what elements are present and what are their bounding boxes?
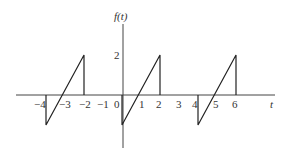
sawtooth-period-3 bbox=[198, 55, 236, 125]
x-tick: 5 bbox=[213, 98, 219, 110]
sawtooth-period-1 bbox=[46, 55, 84, 125]
x-tick: 2 bbox=[156, 98, 162, 110]
x-tick: 6 bbox=[232, 98, 238, 110]
x-tick: 0 bbox=[114, 98, 120, 110]
y-axis-label: f(t) bbox=[114, 10, 128, 23]
x-tick: −3 bbox=[59, 98, 71, 110]
x-tick: −1 bbox=[97, 98, 109, 110]
y-tick-2: 2 bbox=[114, 49, 120, 61]
x-tick: 3 bbox=[176, 98, 182, 110]
sawtooth-figure: f(t) 2 t −4 −3 −2 −1 0 1 2 3 4 5 6 bbox=[0, 0, 285, 151]
sawtooth-period-2 bbox=[122, 55, 160, 125]
x-axis-label: t bbox=[270, 98, 274, 110]
x-tick: −4 bbox=[34, 98, 46, 110]
x-tick: 1 bbox=[139, 98, 145, 110]
x-tick: 4 bbox=[192, 98, 198, 110]
x-tick: −2 bbox=[79, 98, 91, 110]
